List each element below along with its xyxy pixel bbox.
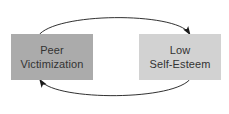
diagram-canvas: Peer Victimization Low Self-Esteem — [0, 0, 229, 114]
node-peer-victimization-line-2: Victimization — [21, 57, 84, 71]
node-low-self-esteem-line-2: Self-Esteem — [149, 57, 210, 71]
node-peer-victimization: Peer Victimization — [11, 34, 93, 80]
node-low-self-esteem: Low Self-Esteem — [139, 34, 221, 80]
bottom-arrowhead-icon — [39, 79, 47, 88]
node-peer-victimization-line-1: Peer — [40, 43, 64, 57]
node-low-self-esteem-line-1: Low — [170, 43, 190, 57]
bottom-arrow-path — [41, 78, 191, 96]
